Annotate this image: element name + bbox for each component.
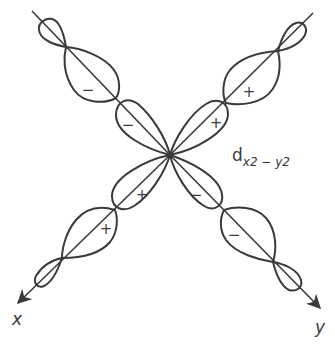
sign-upper-left-inner: − — [122, 116, 135, 134]
y-axis-label: y — [314, 317, 326, 337]
sign-upper-right-inner: + — [210, 114, 223, 132]
sign-lower-right-inner: − — [190, 186, 203, 204]
sign-upper-right-middle: + — [243, 83, 256, 101]
sign-lower-left-middle: + — [100, 220, 113, 238]
sign-lower-right-middle: − — [228, 226, 241, 244]
orbital-label: dx2 − y2 — [232, 145, 290, 169]
sign-lower-left-inner: + — [136, 186, 149, 204]
orbital-label-subscript: x2 − y2 — [242, 155, 290, 169]
x-axis-label: x — [11, 309, 23, 329]
upper-left-axis-line — [32, 11, 170, 155]
dx2-y2-orbital-diagram: − − + + + + − − dx2 − y2 x y — [0, 0, 335, 347]
y-axis-arrow — [170, 155, 320, 308]
lobe-lower-right-outer — [273, 262, 301, 291]
upper-right-axis-line — [170, 13, 313, 155]
x-axis-arrow — [18, 155, 170, 303]
sign-upper-left-middle: − — [82, 81, 95, 99]
orbital-figure: − − + + + + − − dx2 − y2 x y — [0, 0, 335, 347]
lobe-upper-right-outer — [278, 23, 306, 51]
orbital-label-main: d — [232, 145, 243, 165]
